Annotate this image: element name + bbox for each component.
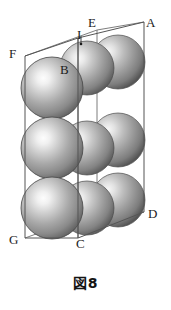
sphere-front-row3	[21, 177, 83, 239]
figure-caption: 図8	[0, 272, 171, 292]
vertex-label-G: G	[9, 233, 18, 246]
sphere-front-row2	[21, 117, 83, 179]
vertex-label-F: F	[9, 47, 16, 60]
vertex-label-D: D	[148, 207, 157, 220]
figure-page: A E I F B D C G 図8	[0, 0, 171, 310]
vertex-label-E: E	[88, 16, 96, 29]
sphere-group-front	[21, 57, 83, 239]
vertex-label-C: C	[76, 237, 85, 250]
unit-cell-figure	[0, 0, 171, 310]
vertex-label-B: B	[60, 63, 69, 76]
vertex-label-I: I	[77, 28, 81, 41]
sphere-front-row1	[21, 57, 83, 119]
vertex-label-A: A	[146, 16, 155, 29]
